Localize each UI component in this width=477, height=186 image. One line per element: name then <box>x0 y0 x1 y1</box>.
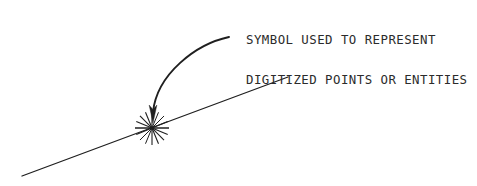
annotation-text-block: SYMBOL USED TO REPRESENT DIGITIZED POINT… <box>246 7 467 113</box>
annotation-line-1: SYMBOL USED TO REPRESENT <box>246 33 467 46</box>
curved-leader-line <box>153 37 229 112</box>
annotation-line-2: DIGITIZED POINTS OR ENTITIES <box>246 73 467 86</box>
diagram-canvas: SYMBOL USED TO REPRESENT DIGITIZED POINT… <box>0 0 477 186</box>
